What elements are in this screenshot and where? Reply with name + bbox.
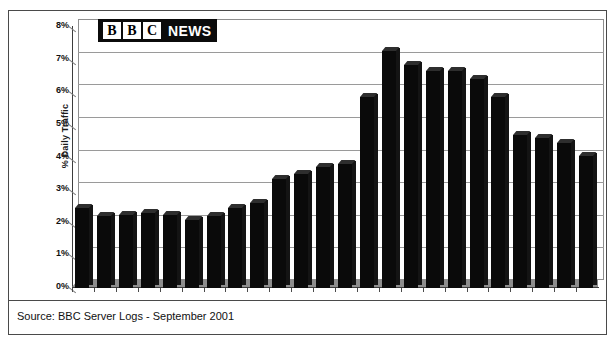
y-axis-tick-labels: 8%7%6%5%4%3%2%1%0% (25, 11, 69, 291)
x-tick-mark (554, 288, 555, 292)
x-tick-mark (467, 288, 468, 292)
bbc-news-logo: B B C NEWS (98, 19, 217, 42)
bar-side (330, 164, 334, 285)
bar-side (111, 213, 115, 285)
y-tick-label: 1% (56, 248, 69, 258)
x-tick-mark (379, 288, 380, 292)
bar (557, 143, 573, 288)
bar-top (119, 211, 136, 215)
logo-letter-b2: B (123, 22, 141, 39)
bar-face (272, 179, 286, 288)
bar-side (593, 153, 597, 285)
bar (75, 208, 91, 288)
bar-side (221, 213, 225, 285)
bar-face (360, 97, 374, 288)
bar (513, 135, 529, 288)
bar-face (294, 174, 308, 288)
bar-side (155, 210, 159, 285)
bar-face (513, 135, 527, 288)
x-tick-mark (423, 288, 424, 292)
bar-top (185, 216, 202, 220)
logo-letter-c: C (143, 22, 161, 39)
bar-top (404, 61, 421, 65)
bar (338, 164, 354, 288)
bar (119, 215, 135, 288)
x-tick-mark (335, 288, 336, 292)
y-tick-label: 0% (56, 281, 69, 291)
y-tick-label: 3% (56, 183, 69, 193)
bar-face (250, 203, 264, 288)
bar-side (440, 68, 444, 285)
x-tick-mark (138, 288, 139, 292)
x-tick-mark (357, 288, 358, 292)
x-tick-mark (269, 288, 270, 292)
x-tick-mark (247, 288, 248, 292)
x-tick-mark (291, 288, 292, 292)
bar-top (141, 209, 158, 213)
bar-face (119, 215, 133, 288)
bar-face (228, 208, 242, 288)
bar-top (448, 67, 465, 71)
y-tick-label: 4% (56, 151, 69, 161)
bar (316, 167, 332, 288)
bar-side (505, 94, 509, 285)
x-tick-mark (160, 288, 161, 292)
bar (228, 208, 244, 288)
bar (163, 215, 179, 288)
y-tick-label: 6% (56, 85, 69, 95)
bar-side (484, 76, 488, 285)
bar-face (426, 71, 440, 288)
bar-side (396, 48, 400, 285)
source-bar: Source: BBC Server Logs - September 2001 (8, 301, 607, 335)
bar (272, 179, 288, 288)
bar-side (242, 205, 246, 285)
bar (404, 65, 420, 288)
bar (185, 220, 201, 289)
bar-top (163, 211, 180, 215)
bar-face (316, 167, 330, 288)
x-tick-mark (445, 288, 446, 292)
bar-side (374, 94, 378, 285)
bar-side (308, 171, 312, 285)
x-tick-mark (576, 288, 577, 292)
bar (382, 51, 398, 288)
x-tick-mark (204, 288, 205, 292)
x-tick-mark (401, 288, 402, 292)
bar (535, 138, 551, 288)
bar-side (549, 135, 553, 285)
bar (294, 174, 310, 288)
x-tick-mark (182, 288, 183, 292)
source-text: Source: BBC Server Logs - September 2001 (17, 310, 234, 322)
bar (250, 203, 266, 288)
bar-top (207, 212, 224, 216)
y-tick-label: 5% (56, 118, 69, 128)
bar (448, 71, 464, 288)
bar-face (185, 220, 199, 289)
logo-letter-b1: B (103, 22, 121, 39)
x-tick-mark (488, 288, 489, 292)
logo-word-news: NEWS (168, 23, 212, 39)
bar-top (426, 67, 443, 71)
x-tick-mark (72, 288, 73, 292)
bar (491, 97, 507, 288)
bar-face (448, 71, 462, 288)
bar-face (470, 79, 484, 288)
bar (207, 216, 223, 288)
bar-side (89, 205, 93, 285)
bar (141, 213, 157, 288)
bar-face (141, 213, 155, 288)
x-tick-mark (313, 288, 314, 292)
bar (426, 71, 442, 288)
bar-side (418, 62, 422, 285)
bar-side (199, 217, 203, 286)
bar-top (470, 75, 487, 79)
chart-figure: % Daily Traffic 8%7%6%5%4%3%2%1%0% 00:00… (8, 10, 607, 335)
bar-face (338, 164, 352, 288)
y-tick-label: 8% (56, 20, 69, 30)
bar (360, 97, 376, 288)
bar-side (264, 200, 268, 285)
x-tick-mark (532, 288, 533, 292)
bar (97, 216, 113, 288)
bar-face (97, 216, 111, 288)
x-tick-mark (225, 288, 226, 292)
